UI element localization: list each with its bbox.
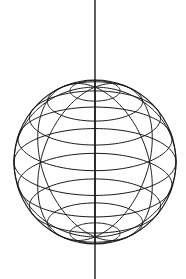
sphere-canvas (0, 0, 186, 279)
wireframe-sphere-diagram (0, 0, 186, 279)
